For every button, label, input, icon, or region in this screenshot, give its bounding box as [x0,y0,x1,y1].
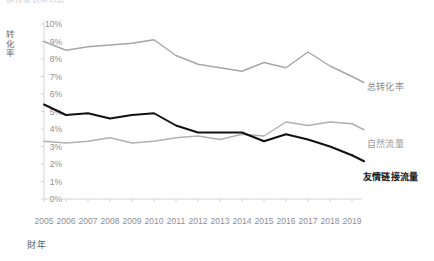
series-label-organic: 自然流量 [367,137,404,150]
conversion-rate-line-chart: 转化率趋势分析 转化率 10%9%8%7%6%5%4%3%2%1%0% 2005… [0,0,434,261]
series-label-total: 总转化率 [367,80,404,93]
x-axis-title: 財年 [27,238,47,251]
plot-area [0,0,434,261]
series-leader-referral [352,155,364,161]
series-label-referral: 友情链接流量 [363,170,418,183]
series-leader-total [352,77,364,83]
series-line-total [44,40,352,77]
series-leader-organic [352,124,364,130]
series-line-referral [44,105,352,156]
